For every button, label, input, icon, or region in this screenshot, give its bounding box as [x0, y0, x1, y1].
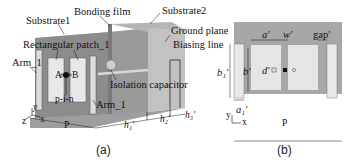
- label-isolation-capacitor: Isolation capacitor: [110, 79, 188, 90]
- label-dim-h1: h₁′: [124, 120, 135, 130]
- label-ground-plane: Ground plane: [171, 25, 229, 36]
- antenna-diagram: y x z Substrate1 Bonding film Substrate2…: [0, 0, 346, 165]
- axis-y-label: y: [32, 102, 38, 112]
- figure-a: y x z Substrate1 Bonding film Substrate2…: [12, 5, 229, 157]
- caption-b: (b): [277, 143, 292, 157]
- label-dim-a1: a₁′: [236, 104, 248, 115]
- leader-substrate2: [150, 13, 160, 24]
- label-port-a: A: [55, 70, 62, 80]
- pin-b: [283, 68, 287, 72]
- label-dim-h3: h₃′: [185, 110, 196, 120]
- label-dim-w: w′: [283, 29, 293, 40]
- axis-x-b: x: [242, 117, 247, 127]
- label-pin: p-i-n: [55, 94, 74, 104]
- label-arm-left: Arm_1: [12, 57, 42, 68]
- pin-diode: [63, 72, 69, 78]
- label-dim-h2: h₂′: [160, 114, 171, 124]
- label-port-b: B: [72, 70, 78, 80]
- arm-b-right: [327, 44, 337, 98]
- label-dim-b: b′: [243, 66, 251, 77]
- label-dim-p: P: [64, 120, 69, 130]
- label-dim-d: d′: [262, 65, 270, 76]
- label-dim-b1: b₁′: [217, 67, 229, 78]
- label-dim-gap: gap′: [313, 29, 330, 40]
- label-bonding-film: Bonding film: [74, 6, 130, 17]
- label-biasing-line: Biasing line: [173, 39, 224, 50]
- label-dim-p-b: P: [282, 118, 287, 128]
- leader-bonding-film: [100, 16, 110, 26]
- label-arm-right: Arm_1: [96, 99, 126, 110]
- axis-y-b: y: [226, 110, 231, 120]
- patch-b-right: [288, 45, 318, 90]
- caption-a: (a): [96, 143, 111, 157]
- isolation-capacitor: [106, 60, 116, 70]
- label-substrate1: Substrate1: [26, 15, 70, 26]
- figure-b: y x a′ w′ gap′ b₁′ b′ d′ a₁′ P (b): [217, 22, 342, 157]
- label-rectangular-patch: Rectangular patch_1: [23, 39, 110, 50]
- label-substrate2: Substrate2: [162, 5, 206, 16]
- axis-z-label: z: [22, 116, 26, 126]
- label-dim-a: a′: [262, 29, 270, 40]
- axis-x-label: x: [40, 114, 45, 124]
